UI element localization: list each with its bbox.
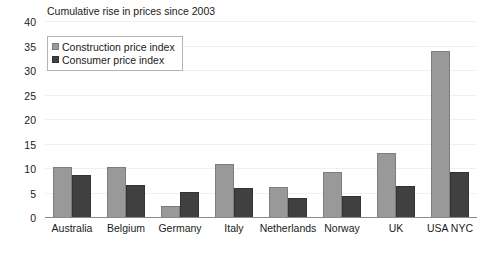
y-tick-label: 10 [24,163,36,175]
x-tick-label: USA NYC [427,222,473,234]
x-tick-label: Italy [224,222,243,234]
bar-group [423,22,477,218]
bar-group [207,22,261,218]
bar [377,153,396,218]
bar [126,185,145,218]
bar [180,192,199,218]
bar [234,188,253,218]
y-tick-label: 20 [24,114,36,126]
bar-group [315,22,369,218]
bar-group [261,22,315,218]
bar [431,51,450,218]
y-tick-label: 25 [24,90,36,102]
bar [269,187,288,218]
y-tick-label: 40 [24,16,36,28]
x-axis: AustraliaBelgiumGermanyItalyNetherlandsN… [45,222,477,242]
bar [72,175,91,218]
bar-chart: Cumulative rise in prices since 2003 051… [0,0,484,257]
x-tick-label: Belgium [107,222,145,234]
x-tick-label: Norway [324,222,360,234]
bar [107,167,126,218]
y-tick-label: 30 [24,65,36,77]
y-tick-label: 15 [24,139,36,151]
legend-label: Construction price index [62,41,175,53]
legend-entry: Consumer price index [52,53,175,66]
chart-title: Cumulative rise in prices since 2003 [47,5,215,17]
bar [215,164,234,218]
bar [288,198,307,218]
bar [450,172,469,218]
x-tick-label: UK [389,222,404,234]
bar [323,172,342,218]
y-tick-label: 5 [30,188,36,200]
x-tick-label: Netherlands [260,222,317,234]
legend-entry: Construction price index [52,40,175,53]
bar [342,196,361,218]
bar [396,186,415,218]
legend-swatch-icon [52,56,59,63]
bar-group [369,22,423,218]
y-axis: 0510152025303540 [0,22,41,218]
x-tick-label: Germany [158,222,201,234]
axis-baseline [45,217,477,218]
legend-label: Consumer price index [62,54,164,66]
bar [53,167,72,218]
y-tick-label: 35 [24,41,36,53]
x-tick-label: Australia [52,222,93,234]
y-tick-label: 0 [30,212,36,224]
chart-legend: Construction price indexConsumer price i… [47,36,183,71]
legend-swatch-icon [52,43,59,50]
